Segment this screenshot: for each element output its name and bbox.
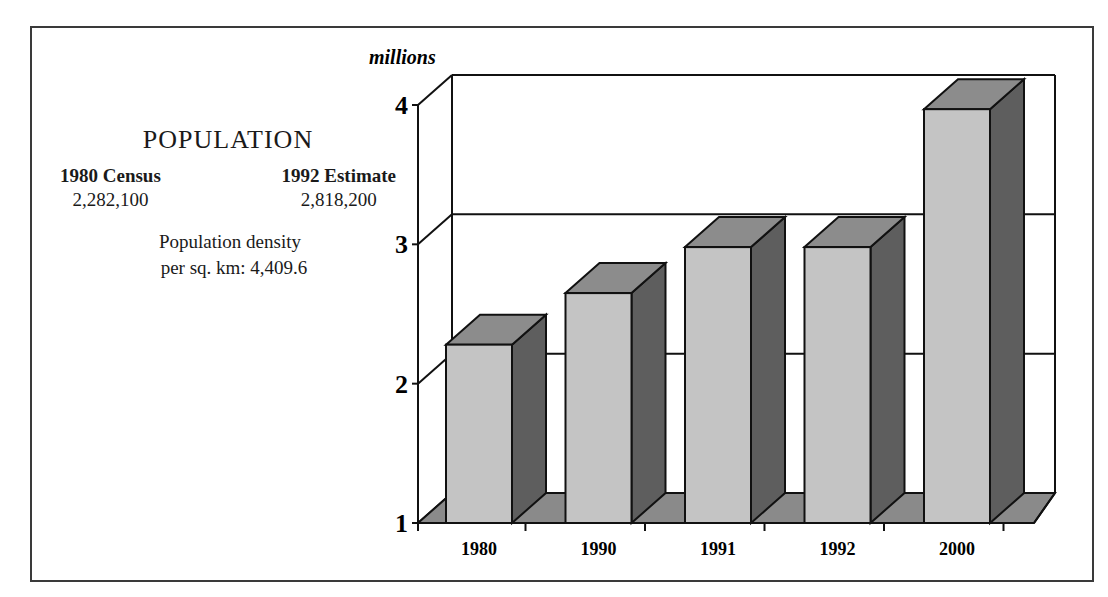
axis-wall-edge — [418, 214, 452, 244]
bar-1992 — [805, 247, 871, 523]
x-tick-label: 1992 — [820, 539, 856, 559]
y-tick-label: 3 — [395, 230, 408, 259]
axis-wall-edge — [418, 75, 452, 105]
bar-1991 — [685, 247, 751, 523]
y-axis-unit-label: millions — [369, 46, 436, 68]
bar-side — [871, 217, 905, 523]
bar-side — [632, 263, 666, 523]
bar-chart: 1234millions19801990199119922000 — [0, 0, 1108, 597]
y-tick-label: 1 — [395, 509, 408, 538]
bar-side — [990, 79, 1024, 523]
x-tick-label: 1980 — [461, 539, 497, 559]
x-tick-label: 1990 — [581, 539, 617, 559]
bar-2000 — [924, 109, 990, 523]
y-tick-label: 4 — [395, 91, 408, 120]
x-tick-label: 2000 — [939, 539, 975, 559]
x-tick-label: 1991 — [700, 539, 736, 559]
bar-1980 — [446, 345, 512, 523]
y-tick-label: 2 — [395, 370, 408, 399]
bar-side — [751, 217, 785, 523]
bar-1990 — [566, 293, 632, 523]
bar-side — [512, 315, 546, 523]
